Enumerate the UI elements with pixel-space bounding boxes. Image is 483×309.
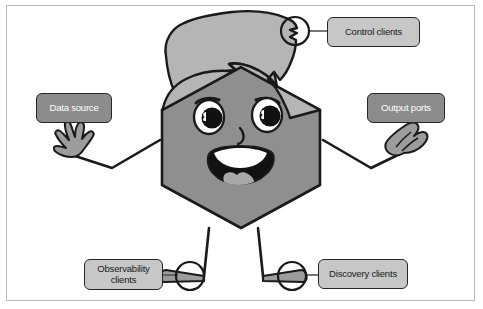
label-control-clients-text: Control clients [341, 27, 406, 38]
right-hand [385, 123, 427, 156]
label-observability-clients[interactable]: Observability clients [84, 259, 163, 290]
label-data-source[interactable]: Data source [36, 93, 112, 123]
label-control-clients[interactable]: Control clients [327, 17, 420, 47]
label-data-source-text: Data source [45, 103, 102, 114]
left-leg [204, 228, 209, 276]
diagram-figure: Control clients Data source Output ports… [0, 0, 483, 309]
label-discovery-clients[interactable]: Discovery clients [318, 259, 408, 289]
label-output-ports[interactable]: Output ports [367, 93, 445, 123]
label-observability-clients-text: Observability clients [93, 264, 153, 286]
right-foot [263, 270, 307, 282]
label-discovery-clients-text: Discovery clients [325, 269, 401, 280]
left-hand [54, 122, 94, 157]
right-leg [258, 228, 263, 276]
left-eye [194, 100, 224, 134]
right-eye [252, 98, 282, 132]
left-foot [160, 270, 204, 282]
label-output-ports-text: Output ports [377, 103, 435, 114]
